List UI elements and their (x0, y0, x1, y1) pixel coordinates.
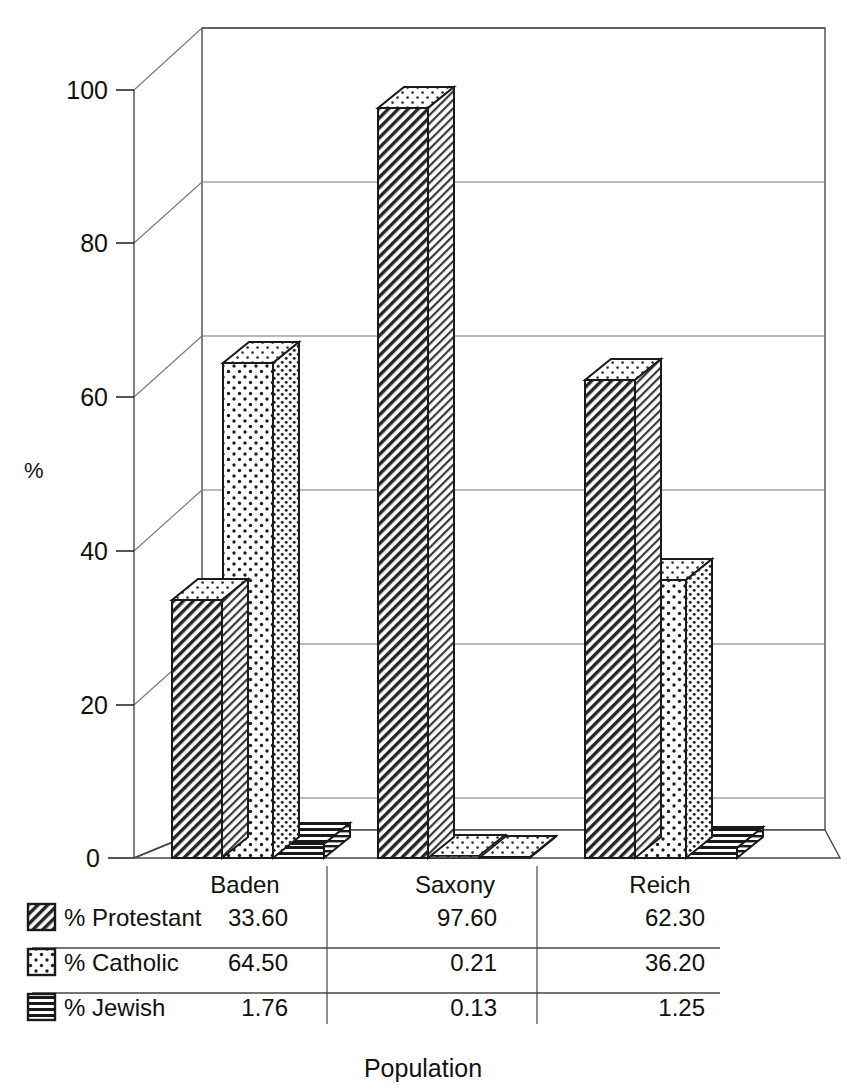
category-label-saxony: Saxony (415, 871, 495, 898)
population-religion-3d-bar-chart: 100 80 60 40 20 0 % (0, 0, 847, 1091)
bar-side-face (686, 559, 712, 858)
ytick-label-40: 40 (80, 537, 108, 565)
dotted-swatch (28, 949, 55, 975)
x-axis-title: Population (364, 1054, 482, 1082)
bar-front-face (480, 857, 530, 858)
cell-protestant-baden: 33.60 (228, 904, 288, 931)
cell-protestant-saxony: 97.60 (437, 904, 497, 931)
cell-jewish-saxony: 0.13 (450, 994, 497, 1021)
cell-jewish-reich: 1.25 (658, 994, 705, 1021)
legend-label-catholic: % Catholic (64, 949, 179, 976)
ytick-label-60: 60 (80, 383, 108, 411)
bar-front-face (585, 380, 635, 858)
cell-catholic-baden: 64.50 (228, 949, 288, 976)
bar-baden-protestant[interactable] (172, 579, 248, 858)
bar-front-face (172, 600, 222, 858)
cell-catholic-reich: 36.20 (645, 949, 705, 976)
bar-saxony-protestant[interactable] (378, 87, 454, 858)
bar-side-face (428, 87, 454, 858)
diagonal-hatch-swatch (28, 904, 55, 930)
legend-label-protestant: % Protestant (64, 904, 202, 931)
bar-reich-protestant[interactable] (585, 359, 661, 858)
bar-side-face (635, 359, 661, 858)
bar-side-face (222, 579, 248, 858)
bar-side-face (273, 342, 299, 858)
chart-page: 100 80 60 40 20 0 % (0, 0, 847, 1091)
category-label-baden: Baden (210, 871, 279, 898)
ytick-label-100: 100 (66, 76, 108, 104)
cell-jewish-baden: 1.76 (241, 994, 288, 1021)
ytick-label-80: 80 (80, 229, 108, 257)
ytick-label-0: 0 (86, 844, 100, 872)
category-label-reich: Reich (629, 871, 690, 898)
y-axis-title: % (24, 458, 44, 483)
horizontal-stripes-swatch (28, 994, 55, 1020)
bar-front-face (378, 108, 428, 858)
bar-front-face (429, 856, 479, 858)
cell-catholic-saxony: 0.21 (450, 949, 497, 976)
ytick-label-20: 20 (80, 691, 108, 719)
cell-protestant-reich: 62.30 (645, 904, 705, 931)
legend-label-jewish: % Jewish (64, 994, 165, 1021)
